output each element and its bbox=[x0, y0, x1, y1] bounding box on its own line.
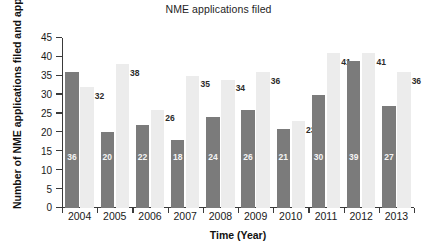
bar[interactable]: 41 bbox=[327, 53, 341, 208]
bar-group: 30412011 bbox=[308, 38, 343, 208]
y-tick-label: 0 bbox=[46, 202, 52, 213]
bar-value-label: 21 bbox=[279, 153, 288, 162]
x-tick bbox=[414, 208, 415, 213]
bar[interactable]: 23 bbox=[292, 121, 306, 208]
bar-value-label: 27 bbox=[384, 153, 393, 162]
bar[interactable]: 39 bbox=[347, 61, 361, 208]
bar-value-label: 24 bbox=[208, 153, 217, 162]
bar-group: 27362013 bbox=[379, 38, 414, 208]
bar[interactable]: 38 bbox=[116, 64, 130, 208]
bar[interactable]: 20 bbox=[101, 132, 115, 208]
x-tick-label: 2012 bbox=[344, 210, 379, 222]
bar[interactable]: 21 bbox=[277, 129, 291, 208]
bar-value-label: 20 bbox=[103, 153, 112, 162]
y-tick-label: 25 bbox=[41, 107, 52, 118]
y-tick-label: 30 bbox=[41, 89, 52, 100]
bar[interactable]: 18 bbox=[171, 140, 185, 208]
bar[interactable]: 24 bbox=[206, 117, 220, 208]
bar-value-label: 30 bbox=[314, 153, 323, 162]
x-tick-label: 2007 bbox=[168, 210, 203, 222]
x-tick-label: 2009 bbox=[238, 210, 273, 222]
bar[interactable]: 41 bbox=[362, 53, 376, 208]
x-tick-label: 2010 bbox=[273, 210, 308, 222]
bar-group: 21232010 bbox=[273, 38, 308, 208]
bar[interactable]: 32 bbox=[80, 87, 94, 208]
y-tick-label: 40 bbox=[41, 51, 52, 62]
bar-group: 39412012 bbox=[344, 38, 379, 208]
bar-value-label: 39 bbox=[349, 153, 358, 162]
bar-group: 24342008 bbox=[203, 38, 238, 208]
plot-area: 051015202530354045 363220042038200522262… bbox=[62, 38, 414, 208]
bar-group: 22262006 bbox=[132, 38, 167, 208]
bar-group: 18352007 bbox=[168, 38, 203, 208]
bar-group: 26362009 bbox=[238, 38, 273, 208]
x-tick-label: 2005 bbox=[97, 210, 132, 222]
bar-value-label: 22 bbox=[138, 153, 147, 162]
y-tick-label: 35 bbox=[41, 70, 52, 81]
y-axis-label: Number of NME applications filed and app… bbox=[11, 29, 24, 209]
bar-value-label: 36 bbox=[67, 153, 76, 162]
bar[interactable]: 36 bbox=[397, 72, 411, 208]
bar-value-label: 26 bbox=[243, 153, 252, 162]
y-axis-label-container: Number of NME applications filed and app… bbox=[0, 28, 34, 210]
x-axis-label: Time (Year) bbox=[62, 229, 414, 241]
bar-group: 36322004 bbox=[62, 38, 97, 208]
y-tick-label: 20 bbox=[41, 126, 52, 137]
bar-value-label: 18 bbox=[173, 153, 182, 162]
y-tick-label: 10 bbox=[41, 164, 52, 175]
bar-value-label: 36 bbox=[412, 77, 421, 86]
bar[interactable]: 22 bbox=[136, 125, 150, 208]
chart-figure: NME applications filed Number of NME app… bbox=[0, 0, 427, 250]
bar[interactable]: 26 bbox=[241, 110, 255, 208]
bar[interactable]: 36 bbox=[65, 72, 79, 208]
bar[interactable]: 34 bbox=[221, 80, 235, 208]
bar[interactable]: 27 bbox=[382, 106, 396, 208]
y-tick-label: 5 bbox=[46, 183, 52, 194]
x-tick-label: 2004 bbox=[62, 210, 97, 222]
bar-group: 20382005 bbox=[97, 38, 132, 208]
y-tick-label: 15 bbox=[41, 145, 52, 156]
bar[interactable]: 36 bbox=[256, 72, 270, 208]
y-tick-label: 45 bbox=[41, 32, 52, 43]
bar[interactable]: 26 bbox=[151, 110, 165, 208]
chart-title: NME applications filed bbox=[0, 3, 427, 15]
x-tick-label: 2011 bbox=[308, 210, 343, 222]
bar[interactable]: 35 bbox=[186, 76, 200, 208]
x-tick-label: 2008 bbox=[203, 210, 238, 222]
x-tick-label: 2013 bbox=[379, 210, 414, 222]
bar[interactable]: 30 bbox=[312, 95, 326, 208]
x-tick-label: 2006 bbox=[132, 210, 167, 222]
